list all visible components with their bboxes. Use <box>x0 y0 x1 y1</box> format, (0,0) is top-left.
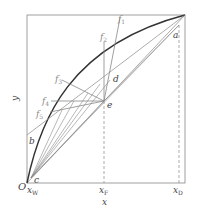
y-axis-label: y <box>10 95 20 102</box>
xd-label: xD <box>173 185 183 196</box>
f4-label: f4 <box>41 96 49 107</box>
line-a-e <box>104 25 179 101</box>
xw-label: xW <box>27 185 39 196</box>
q-line-f5 <box>50 101 104 112</box>
mccabe-thiele-diagram: a b c d e f1 f2 f3 f4 f5 O x y xW xF xD <box>0 0 199 215</box>
origin-label: O <box>18 181 26 192</box>
x-axis-label: x <box>102 197 107 207</box>
stripping-line <box>31 25 179 178</box>
point-b-label: b <box>29 136 35 146</box>
f3-label: f3 <box>54 74 62 85</box>
point-a-label: a <box>173 30 178 40</box>
point-e-label: e <box>107 100 112 110</box>
f2-label: f2 <box>99 32 107 43</box>
point-c-label: c <box>34 175 39 185</box>
stripping-lines <box>31 25 179 178</box>
point-d-label: d <box>113 74 119 84</box>
f5-label: f5 <box>35 109 43 120</box>
xf-label: xF <box>99 185 108 196</box>
f1-label: f1 <box>117 14 125 25</box>
q-line-f3 <box>62 80 104 101</box>
rectifying-line <box>27 15 185 135</box>
